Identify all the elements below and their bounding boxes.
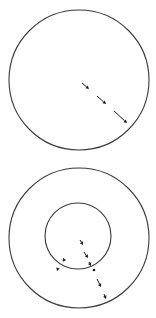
diagram-canvas <box>0 0 156 318</box>
arrow-boundary-out-icon <box>93 269 96 272</box>
background <box>0 0 156 318</box>
